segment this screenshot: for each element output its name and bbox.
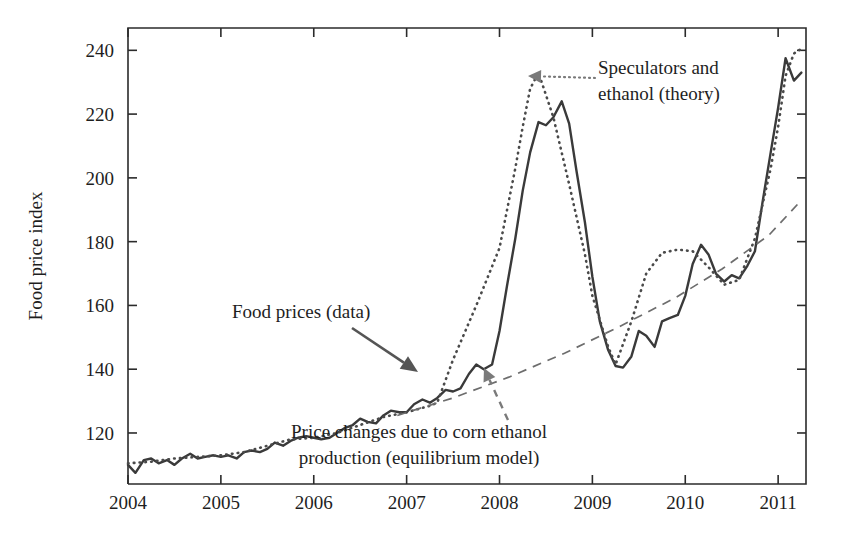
x-tick-label-2009: 2009	[573, 492, 611, 513]
y-axis-title: Food price index	[25, 191, 46, 320]
annotation-label-speculators-ethanol: Speculators and	[598, 57, 719, 78]
y-tick-label-240: 240	[86, 40, 115, 61]
annotation-label-corn-ethanol-equilibrium: Price changes due to corn ethanol	[291, 421, 547, 442]
y-tick-label-220: 220	[86, 104, 115, 125]
x-tick-label-2011: 2011	[759, 492, 796, 513]
x-tick-label-2007: 2007	[388, 492, 426, 513]
y-tick-label-120: 120	[86, 423, 115, 444]
annotation-label-food-prices-data: Food prices (data)	[232, 301, 370, 323]
x-tick-label-2006: 2006	[295, 492, 333, 513]
figure-container: 20042005200620072008200920102011 1201401…	[0, 0, 845, 542]
annotation-label-speculators-ethanol: ethanol (theory)	[598, 83, 720, 105]
annotation-label-corn-ethanol-equilibrium: production (equilibrium model)	[299, 447, 540, 469]
y-tick-label-200: 200	[86, 168, 115, 189]
y-tick-label-160: 160	[86, 295, 115, 316]
food-price-index-chart: 20042005200620072008200920102011 1201401…	[0, 0, 845, 542]
x-tick-label-2010: 2010	[666, 492, 704, 513]
x-tick-label-2005: 2005	[202, 492, 240, 513]
y-tick-label-180: 180	[86, 232, 115, 253]
x-tick-label-2008: 2008	[481, 492, 519, 513]
x-tick-label-2004: 2004	[109, 492, 148, 513]
y-tick-label-140: 140	[86, 359, 115, 380]
